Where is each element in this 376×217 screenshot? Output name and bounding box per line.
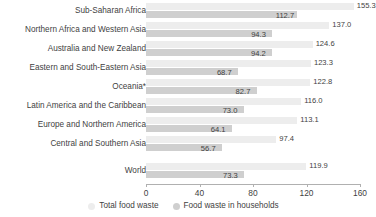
x-axis-tick-label: 40 [195, 188, 204, 198]
bar-food-waste-households [146, 11, 297, 18]
value-label-total: 116.0 [304, 97, 322, 105]
bar-total-food-waste [146, 163, 306, 170]
legend-item[interactable]: Food waste in households [173, 201, 279, 211]
value-label-households: 73.0 [223, 107, 238, 115]
category-label: Sub-Saharan Africa [0, 4, 146, 18]
x-axis-tick-label: 0 [144, 188, 149, 198]
category-label: Oceania* [0, 80, 146, 94]
value-label-households: 64.1 [211, 126, 226, 134]
legend-label: Total food waste [99, 201, 158, 211]
bar-group: 113.164.1 [146, 116, 367, 135]
chart-row: Latin America and the Caribbean116.073.0 [0, 97, 367, 116]
chart-row: Oceania*122.882.7 [0, 78, 367, 97]
chart-row: World119.973.3 [0, 162, 367, 181]
value-label-total: 137.0 [332, 21, 351, 29]
value-label-total: 155.3 [357, 2, 376, 10]
bar-group: 97.456.7 [146, 135, 367, 154]
bar-group: 116.073.0 [146, 97, 367, 116]
chart-row: Northern Africa and Western Asia137.094.… [0, 21, 367, 40]
value-label-total: 124.6 [316, 40, 335, 48]
legend-swatch-icon [173, 203, 180, 210]
value-label-total: 122.8 [313, 78, 332, 86]
category-label: Australia and New Zealand [0, 42, 146, 56]
category-label: Northern Africa and Western Asia [0, 23, 146, 37]
bar-total-food-waste [146, 3, 354, 10]
bar-group: 137.094.3 [146, 21, 367, 40]
legend-label: Food waste in households [184, 201, 279, 211]
category-label: Latin America and the Caribbean [0, 99, 146, 113]
value-label-total: 97.4 [279, 135, 294, 143]
x-axis-tick [253, 184, 254, 187]
bar-total-food-waste [146, 98, 301, 105]
category-label: Eastern and South-Eastern Asia [0, 61, 146, 75]
bar-group: 122.882.7 [146, 78, 367, 97]
x-axis-tick [146, 184, 147, 187]
value-label-households: 56.7 [201, 145, 216, 153]
bar-total-food-waste [146, 60, 311, 67]
chart-row: Australia and New Zealand124.694.2 [0, 40, 367, 59]
bar-total-food-waste [146, 41, 313, 48]
chart-plot-area: Sub-Saharan Africa155.3112.7Northern Afr… [0, 2, 367, 181]
x-axis-tick-label: 80 [248, 188, 257, 198]
value-label-total: 119.9 [309, 162, 327, 170]
category-label: Central and Southern Asia [0, 137, 146, 151]
legend-swatch-icon [88, 203, 95, 210]
category-label: World [0, 164, 146, 178]
chart-row: Eastern and South-Eastern Asia123.368.7 [0, 59, 367, 78]
chart-row: Central and Southern Asia97.456.7 [0, 135, 367, 154]
value-label-households: 112.7 [276, 12, 294, 20]
chart-row: Europe and Northern America113.164.1 [0, 116, 367, 135]
bar-total-food-waste [146, 136, 276, 143]
bar-total-food-waste [146, 117, 297, 124]
value-label-total: 113.1 [300, 116, 318, 124]
value-label-households: 82.7 [236, 88, 251, 96]
value-label-total: 123.3 [314, 59, 333, 67]
category-label: Europe and Northern America [0, 118, 146, 132]
x-axis-tick [360, 184, 361, 187]
x-axis-tick-label: 160 [353, 188, 367, 198]
value-label-households: 73.3 [223, 172, 238, 180]
bar-group: 123.368.7 [146, 59, 367, 78]
bar-group: 124.694.2 [146, 40, 367, 59]
bar-total-food-waste [146, 79, 310, 86]
x-axis-tick [307, 184, 308, 187]
value-label-households: 94.3 [251, 31, 266, 39]
bar-total-food-waste [146, 22, 329, 29]
legend-item[interactable]: Total food waste [88, 201, 158, 211]
value-label-households: 68.7 [217, 69, 232, 77]
x-axis-tick-label: 120 [300, 188, 314, 198]
chart-row: Sub-Saharan Africa155.3112.7 [0, 2, 367, 21]
bar-group: 119.973.3 [146, 162, 367, 181]
chart-legend: Total food wasteFood waste in households [0, 201, 367, 211]
x-axis-tick [200, 184, 201, 187]
bar-group: 155.3112.7 [146, 2, 367, 21]
value-label-households: 94.2 [251, 50, 266, 58]
